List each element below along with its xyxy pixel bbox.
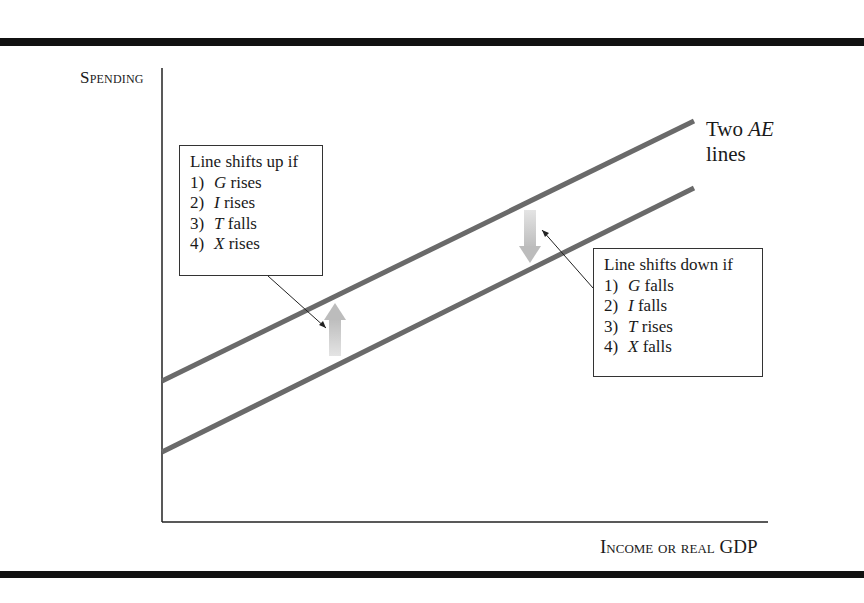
- shift-up-title: Line shifts up if: [190, 152, 312, 173]
- y-axis-label: Spending: [80, 68, 144, 88]
- leader-line-up: [268, 276, 326, 328]
- shift-down-box: Line shifts down if 1)G falls 2)I falls …: [593, 248, 763, 377]
- shift-down-item: 1)G falls: [604, 276, 752, 297]
- shift-down-arrow-icon: [519, 210, 541, 263]
- leader-arrowhead-down: [542, 230, 549, 237]
- x-axis-label: Income or real GDP: [600, 536, 758, 558]
- ae-label-italic: AE: [748, 117, 774, 141]
- shift-up-item: 2)I rises: [190, 193, 312, 214]
- shift-down-item: 4)X falls: [604, 337, 752, 358]
- shift-up-item: 4)X rises: [190, 234, 312, 255]
- ae-label-prefix: Two: [706, 117, 748, 141]
- shift-down-item: 2)I falls: [604, 296, 752, 317]
- ae-label-suffix: lines: [706, 142, 746, 166]
- ae-lines-label: Two AE lines: [706, 117, 774, 167]
- shift-up-arrow-icon: [324, 303, 346, 356]
- shift-down-title: Line shifts down if: [604, 255, 752, 276]
- shift-up-box: Line shifts up if 1)G rises 2)I rises 3)…: [179, 145, 323, 276]
- shift-down-item: 3)T rises: [604, 317, 752, 338]
- shift-up-item: 3)T falls: [190, 214, 312, 235]
- shift-up-item: 1)G rises: [190, 173, 312, 194]
